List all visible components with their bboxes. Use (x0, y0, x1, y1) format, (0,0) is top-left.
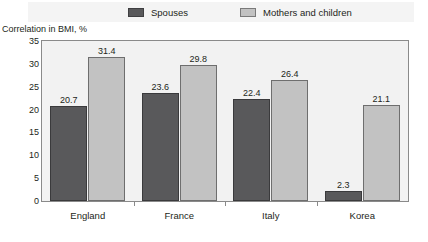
bar-value-label: 2.3 (337, 180, 350, 190)
x-tick-label-england: England (70, 210, 105, 221)
bar-italy-mothers-and-children: 26.4 (271, 80, 308, 201)
bar-korea-spouses: 2.3 (325, 191, 362, 202)
bar-value-label: 21.1 (372, 94, 390, 104)
y-tick-label: 30 (9, 59, 39, 68)
bar-england-spouses: 20.7 (50, 106, 87, 201)
y-tick-label: 35 (9, 37, 39, 46)
x-tick-label-france: France (164, 210, 194, 221)
y-tick-label: 5 (9, 174, 39, 183)
legend-label-mothers-and-children: Mothers and children (263, 7, 352, 18)
bar-france-spouses: 23.6 (142, 93, 179, 201)
bar-italy-spouses: 22.4 (233, 99, 270, 201)
bar-value-label: 31.4 (98, 46, 116, 56)
bar-value-label: 23.6 (151, 82, 169, 92)
plot-area: 20.731.423.629.822.426.42.321.1 (41, 40, 409, 202)
y-tick-label: 20 (9, 105, 39, 114)
x-tick-label-italy: Italy (262, 210, 279, 221)
chart-legend: Spouses Mothers and children (0, 2, 428, 22)
plot-inner: 20.731.423.629.822.426.42.321.1 (42, 41, 408, 201)
y-tick-label: 10 (9, 151, 39, 160)
legend-item-spouses: Spouses (128, 2, 188, 22)
legend-label-spouses: Spouses (151, 7, 188, 18)
legend-item-mothers-and-children: Mothers and children (240, 2, 352, 22)
bar-england-mothers-and-children: 31.4 (88, 57, 125, 201)
dark-swatch-icon (128, 8, 144, 17)
y-tick-label: 25 (9, 82, 39, 91)
bar-value-label: 29.8 (189, 54, 207, 64)
x-tick-mark (317, 202, 318, 206)
y-tick-label: 0 (9, 197, 39, 206)
bar-korea-mothers-and-children: 21.1 (363, 105, 400, 201)
bar-france-mothers-and-children: 29.8 (180, 65, 217, 201)
y-tick-label: 15 (9, 128, 39, 137)
y-axis-title: Correlation in BMI, % (2, 24, 87, 35)
bar-value-label: 22.4 (243, 88, 261, 98)
x-tick-label-korea: Korea (350, 210, 375, 221)
x-tick-mark (134, 202, 135, 206)
bar-chart-figure: Spouses Mothers and children Correlation… (0, 0, 428, 242)
x-tick-mark (225, 202, 226, 206)
light-swatch-icon (240, 8, 256, 17)
bar-value-label: 20.7 (60, 95, 78, 105)
bar-value-label: 26.4 (281, 69, 299, 79)
